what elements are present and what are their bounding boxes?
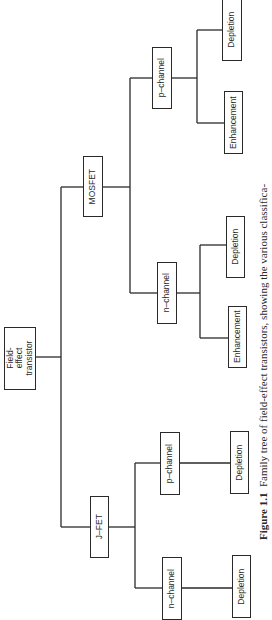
node-label: Depletion [231,229,240,265]
caption-text: Family tree of field-effect transistors,… [257,184,269,487]
node-label: Depletion [235,445,244,481]
node-mosfet-p-enhancement: Enhancement [224,91,243,154]
node-mosfet-p-depletion: Depletion [222,0,242,61]
node-label: Enhancement [229,96,238,148]
node-label: n–channel [162,273,171,312]
node-mosfet-n-channel: n–channel [157,262,177,324]
node-label: n–channel [167,569,176,608]
node-jfet-p-depletion: Depletion [230,431,249,494]
node-label: p–channel [165,444,174,483]
figure-caption: Figure 1.1 Family tree of field-effect t… [256,106,270,618]
node-label: Depletion [227,12,236,48]
node-mosfet-n-enhancement: Enhancement [228,306,247,368]
figure-label: Figure 1.1 [257,493,269,540]
node-label: p–channel [157,58,166,97]
node-label: MOSFET [88,169,97,204]
node-jfet-n-channel: n–channel [162,557,182,620]
node-label: Depletion [237,569,246,605]
node-jfet: J–FET [90,496,109,558]
node-jfet-p-channel: p–channel [160,432,180,495]
node-mosfet: MOSFET [83,156,103,217]
caption-line: Figure 1.1 Family tree of field-effect t… [257,184,269,540]
node-field-effect-transistor: Field-effect transistor [4,327,36,390]
node-mosfet-n-depletion: Depletion [226,216,245,278]
node-label: Field-effect transistor [6,341,34,376]
node-mosfet-p-channel: p–channel [152,47,172,109]
node-label: Enhancement [233,311,242,363]
node-label: J–FET [95,514,104,539]
node-jfet-n-depletion: Depletion [232,555,251,618]
